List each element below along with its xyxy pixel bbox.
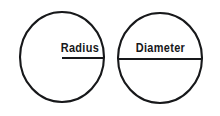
diagram-vector-layer — [0, 0, 220, 116]
diameter-label: Diameter — [136, 41, 185, 54]
radius-label: Radius — [61, 41, 99, 54]
circle-terms-diagram: Radius Diameter — [0, 0, 220, 116]
